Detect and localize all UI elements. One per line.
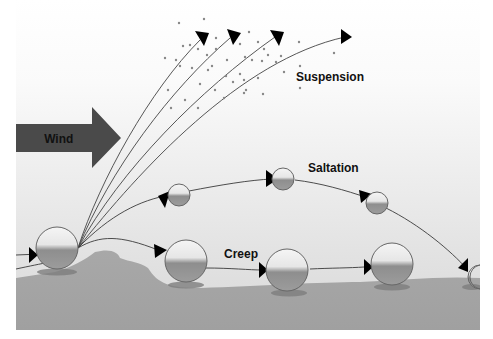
saltation-grain-1 bbox=[168, 184, 190, 206]
creep-grain-1 bbox=[165, 240, 207, 282]
wind-label: Wind bbox=[44, 132, 73, 147]
suspension-label: Suspension bbox=[296, 70, 364, 84]
creep-label: Creep bbox=[224, 247, 258, 261]
right-margin bbox=[480, 0, 493, 339]
saltation-label: Saltation bbox=[308, 161, 359, 175]
creep-grain-2 bbox=[266, 249, 308, 291]
bottom-margin bbox=[0, 330, 493, 339]
wind-transport-diagram: Wind bbox=[0, 0, 493, 339]
saltation-grain-3 bbox=[366, 192, 388, 214]
saltation-grain-2 bbox=[272, 168, 294, 190]
creep-grain-3 bbox=[371, 243, 413, 285]
creep-grain-origin bbox=[36, 227, 78, 269]
